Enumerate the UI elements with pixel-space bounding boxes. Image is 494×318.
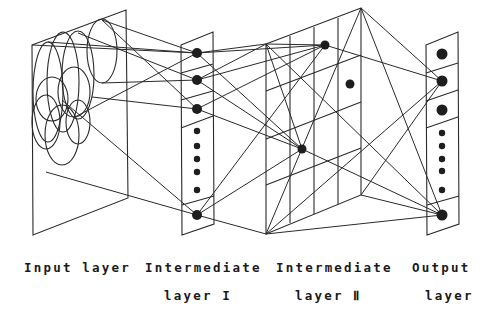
layer-1-node — [194, 169, 200, 175]
connection-line — [266, 44, 325, 45]
output-node — [437, 49, 448, 60]
layer-1-node — [192, 48, 202, 58]
layer-1-node — [192, 104, 202, 114]
intermediate-layer-2-sublabel: layer Ⅱ — [295, 288, 362, 303]
output-divider — [426, 117, 458, 128]
intermediate-layer-2-label: Intermediate — [276, 260, 393, 275]
connection-line — [361, 8, 442, 81]
output-node — [439, 156, 445, 162]
layer-1-divider — [181, 91, 213, 100]
connection-line — [48, 42, 197, 53]
connection-line — [197, 44, 266, 53]
connection-line — [197, 45, 325, 109]
input-layer-label: Input layer — [24, 260, 131, 275]
output-divider — [426, 90, 458, 101]
output-divider — [426, 63, 458, 73]
layer-1-node — [194, 156, 200, 162]
connection-line — [361, 81, 442, 195]
connection-line — [102, 80, 197, 83]
output-divider — [427, 196, 459, 205]
connection-line — [266, 44, 442, 215]
connection-line — [78, 33, 197, 80]
connection-line — [361, 195, 442, 215]
connection-line — [197, 215, 266, 234]
connection-lines — [32, 8, 442, 234]
output-node — [437, 76, 448, 87]
layer-2-node — [298, 145, 307, 154]
intermediate-layer-1-sublabel: layer I — [164, 288, 232, 303]
output-node — [437, 105, 448, 116]
connection-line — [46, 172, 197, 215]
layer-1-node — [194, 187, 200, 193]
connection-line — [325, 45, 442, 81]
layer-1-node — [194, 128, 200, 134]
output-layer-label: Output — [412, 260, 470, 275]
output-node — [439, 187, 445, 193]
intermediate-layer-1-label: Intermediate — [145, 260, 262, 275]
receptive-field-ellipse — [66, 100, 90, 144]
output-layer-sublabel: layer — [425, 288, 474, 303]
connection-line — [302, 149, 442, 215]
layer-1-divider — [181, 116, 213, 128]
output-node — [439, 168, 445, 174]
output-node — [437, 210, 448, 221]
input-layer-plane — [32, 10, 128, 235]
output-node — [439, 143, 445, 149]
output-node — [439, 130, 445, 136]
layer-2-node — [321, 41, 330, 50]
layer-1-node — [192, 210, 202, 220]
connection-line — [197, 149, 302, 215]
connection-line — [266, 215, 442, 234]
connection-line — [266, 81, 442, 234]
layer-1-divider — [182, 196, 214, 205]
layer-2-node — [346, 80, 355, 89]
layer-1-node — [194, 143, 200, 149]
layer-1-node — [192, 75, 202, 85]
connection-line — [361, 8, 442, 215]
layer-1-divider — [181, 64, 213, 73]
